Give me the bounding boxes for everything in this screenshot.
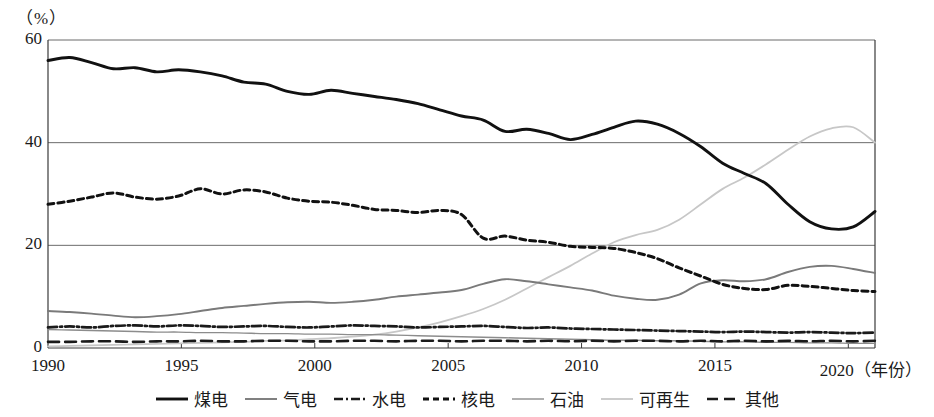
plot-area: [0, 0, 934, 417]
legend-swatch-gas-icon: [244, 392, 278, 406]
legend-item-renewable[interactable]: 可再生: [600, 386, 690, 411]
legend-label-renewable: 可再生: [639, 386, 690, 411]
legend-label-hydro: 水电: [372, 386, 406, 411]
data-series: [48, 57, 875, 346]
series-line-renewable: [48, 126, 875, 346]
legend-label-nuclear: 核电: [461, 386, 495, 411]
x-tick-2020: 2020（年份）: [820, 356, 922, 381]
series-line-coal: [48, 57, 875, 229]
legend-label-coal: 煤电: [194, 386, 228, 411]
legend-label-oil: 石油: [550, 386, 584, 411]
x-tick-1990: 1990: [31, 356, 65, 376]
x-tick-2015: 2015: [698, 356, 732, 376]
series-line-nuclear: [48, 189, 875, 292]
chart-legend: 煤电气电水电核电石油可再生其他: [0, 386, 934, 411]
legend-item-other[interactable]: 其他: [706, 386, 779, 411]
chart-container: （%） 0204060 1990199520002005201020152020…: [0, 0, 934, 417]
legend-label-other: 其他: [745, 386, 779, 411]
legend-swatch-oil-icon: [511, 392, 545, 406]
legend-label-gas: 气电: [283, 386, 317, 411]
legend-swatch-hydro-icon: [333, 392, 367, 406]
legend-swatch-nuclear-icon: [422, 392, 456, 406]
series-line-gas: [48, 266, 875, 317]
x-tick-2005: 2005: [431, 356, 465, 376]
series-line-other: [48, 341, 875, 342]
legend-swatch-coal-icon: [155, 392, 189, 406]
legend-item-nuclear[interactable]: 核电: [422, 386, 495, 411]
x-tick-2010: 2010: [565, 356, 599, 376]
legend-item-hydro[interactable]: 水电: [333, 386, 406, 411]
x-tick-1995: 1995: [164, 356, 198, 376]
x-tick-2000: 2000: [298, 356, 332, 376]
axes: [48, 40, 875, 348]
legend-swatch-renewable-icon: [600, 392, 634, 406]
legend-item-oil[interactable]: 石油: [511, 386, 584, 411]
legend-swatch-other-icon: [706, 392, 740, 406]
legend-item-coal[interactable]: 煤电: [155, 386, 228, 411]
legend-item-gas[interactable]: 气电: [244, 386, 317, 411]
